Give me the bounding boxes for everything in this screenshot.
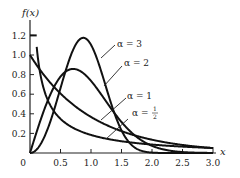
origin-label: 0 bbox=[20, 158, 26, 168]
y-tick-label: 1.2 bbox=[12, 31, 26, 41]
x-tick-labels: 0 0.5 1.0 1.5 2.0 2.5 3.0 bbox=[20, 158, 220, 168]
x-axis-label: x bbox=[220, 146, 226, 157]
x-tick-label: 0.5 bbox=[53, 158, 68, 168]
legend-frac-num: 1 bbox=[153, 105, 157, 112]
legend-frac-den: 2 bbox=[153, 113, 157, 120]
x-tick-label: 1.0 bbox=[84, 158, 99, 168]
curves bbox=[30, 38, 213, 153]
annotation-alpha-2: α = 2 bbox=[104, 58, 149, 86]
y-tick-label: 0.8 bbox=[12, 70, 27, 80]
x-tick-label: 2.5 bbox=[175, 158, 190, 168]
x-tick-label: 1.5 bbox=[114, 158, 129, 168]
y-tick-labels: 0.2 0.4 0.6 0.8 1.0 1.2 bbox=[12, 31, 27, 139]
chart-svg: 0.2 0.4 0.6 0.8 1.0 1.2 0 0.5 1.0 1.5 2.… bbox=[0, 0, 240, 178]
legend-label-alpha-half: α = bbox=[132, 108, 148, 118]
y-tick-label: 0.6 bbox=[12, 89, 27, 99]
y-tick-label: 0.4 bbox=[12, 109, 27, 119]
legend-label-alpha-3: α = 3 bbox=[117, 39, 142, 49]
y-axis-label: f(x) bbox=[21, 7, 39, 18]
weibull-density-chart: 0.2 0.4 0.6 0.8 1.0 1.2 0 0.5 1.0 1.5 2.… bbox=[0, 0, 240, 178]
x-tick-label: 3.0 bbox=[206, 158, 221, 168]
curve-alpha-3 bbox=[30, 38, 213, 153]
legend-label-alpha-2: α = 2 bbox=[124, 58, 149, 68]
annotation-alpha-3: α = 3 bbox=[101, 39, 142, 58]
legend-label-alpha-1: α = 1 bbox=[127, 91, 152, 101]
x-tick-label: 2.0 bbox=[145, 158, 160, 168]
y-tick-label: 1.0 bbox=[12, 50, 27, 60]
y-tick-label: 0.2 bbox=[12, 129, 26, 139]
